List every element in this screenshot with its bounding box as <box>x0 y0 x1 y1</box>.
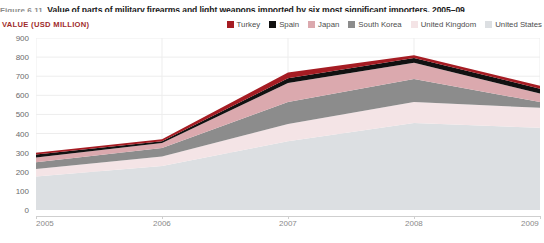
y-axis-tick-label: 800 <box>16 53 29 62</box>
x-axis-tick <box>288 216 289 219</box>
y-axis-tick-label: 600 <box>16 91 29 100</box>
x-axis-labels: 20052006200720082009 <box>36 219 540 233</box>
x-axis-tick <box>162 216 163 219</box>
y-axis-tick-label: 200 <box>16 167 29 176</box>
y-axis-tick-label: 500 <box>16 110 29 119</box>
legend-item-label: United Kingdom <box>421 20 476 29</box>
legend-swatch-icon <box>227 21 234 28</box>
legend-item-united-kingdom[interactable]: United Kingdom <box>411 20 476 29</box>
x-axis-tick-label: 2005 <box>36 219 54 228</box>
legend-swatch-icon <box>308 21 315 28</box>
legend-item-label: South Korea <box>358 20 401 29</box>
legend-swatch-icon <box>411 21 418 28</box>
y-axis-tick-label: 400 <box>16 129 29 138</box>
y-axis-labels: 9008007006005004003002001000 <box>0 38 34 210</box>
legend-item-label: Spain <box>279 20 299 29</box>
x-axis-tick <box>36 216 37 219</box>
legend-item-united-states[interactable]: United States <box>485 20 542 29</box>
x-axis-tick-label: 2006 <box>153 219 171 228</box>
x-axis-tick <box>414 216 415 219</box>
stacked-area-canvas <box>36 38 540 210</box>
legend-item-spain[interactable]: Spain <box>269 20 299 29</box>
x-axis-tick-label: 2007 <box>279 219 297 228</box>
y-axis-tick-label: 0 <box>25 206 29 215</box>
legend-item-south-korea[interactable]: South Korea <box>348 20 401 29</box>
legend-item-label: Japan <box>318 20 339 29</box>
x-axis-tick <box>540 216 541 219</box>
y-axis-tick-label: 700 <box>16 72 29 81</box>
chart-legend: TurkeySpainJapanSouth KoreaUnited Kingdo… <box>227 20 542 29</box>
legend-item-label: Turkey <box>237 20 261 29</box>
legend-swatch-icon <box>348 21 355 28</box>
x-axis-tick-label: 2008 <box>405 219 423 228</box>
y-axis-tick-label: 300 <box>16 148 29 157</box>
page-title: Value of parts of military firearms and … <box>47 5 464 12</box>
y-axis-tick-label: 100 <box>16 186 29 195</box>
chart-plot-area <box>36 38 540 210</box>
y-axis-tick-label: 900 <box>16 34 29 43</box>
legend-item-turkey[interactable]: Turkey <box>227 20 261 29</box>
legend-item-japan[interactable]: Japan <box>308 20 339 29</box>
figure-number: Figure 6.11 <box>0 6 43 12</box>
x-axis-tick-label: 2009 <box>521 219 539 228</box>
figure-title-row: Figure 6.11 Value of parts of military f… <box>0 0 544 12</box>
legend-swatch-icon <box>485 21 492 28</box>
legend-item-label: United States <box>495 20 542 29</box>
value-axis-title: VALUE (USD MILLION) <box>2 20 89 29</box>
legend-swatch-icon <box>269 21 276 28</box>
stacked-area-chart <box>36 38 540 210</box>
